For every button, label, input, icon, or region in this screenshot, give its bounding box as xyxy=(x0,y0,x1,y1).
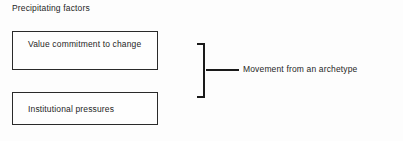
factor-box-value-commitment: Value commitment to change xyxy=(12,31,158,70)
factor-box-institutional-pressures: Institutional pressures xyxy=(12,92,158,125)
factor-box-label: Value commitment to change xyxy=(28,39,149,50)
section-heading: Precipitating factors xyxy=(12,3,90,14)
bracket-bottom-serif xyxy=(197,96,205,98)
precipitating-factors-diagram: Precipitating factors Value commitment t… xyxy=(0,0,403,141)
outcome-label: Movement from an archetype xyxy=(243,64,357,75)
bracket-spine xyxy=(203,43,205,98)
connector-line xyxy=(206,69,239,71)
factor-box-label: Institutional pressures xyxy=(28,104,149,115)
grouping-bracket-icon xyxy=(197,43,206,98)
